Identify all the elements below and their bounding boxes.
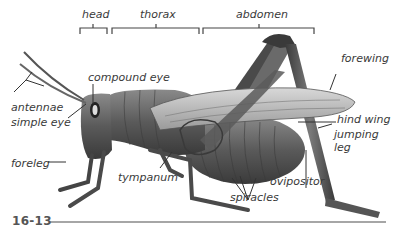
label-ovipositor: ovipositor	[270, 176, 324, 188]
label-thorax: thorax	[140, 9, 176, 21]
label-compound-eye: compound eye	[88, 72, 170, 84]
label-forewing: forewing	[341, 53, 389, 65]
label-antennae: antennae	[11, 102, 63, 114]
label-abdomen: abdomen	[236, 9, 288, 21]
figure-number: 16-13	[12, 214, 52, 228]
label-simple-eye: simple eye	[11, 117, 71, 129]
label-head: head	[82, 9, 109, 21]
label-jumping-leg-line2: leg	[334, 142, 351, 154]
label-jumping-leg-line1: jumping	[334, 129, 379, 141]
label-hind-wing: hind wing	[337, 114, 391, 126]
label-foreleg: foreleg	[11, 158, 50, 170]
region-brackets	[80, 24, 314, 34]
label-spiracles: spiracles	[230, 192, 279, 204]
grasshopper-diagram: head thorax abdomen compound eye antenna…	[0, 0, 399, 234]
label-tympanum: tympanum	[118, 172, 178, 184]
